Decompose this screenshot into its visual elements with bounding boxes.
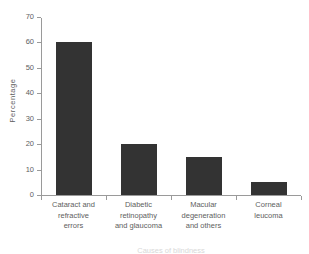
x-category-label-line: Cataract and [42, 200, 105, 211]
bar-2 [186, 157, 222, 195]
y-axis-spine [41, 18, 42, 196]
x-category-label-line: and others [172, 221, 235, 232]
x-category-label-3: Cornealleucoma [236, 200, 301, 242]
x-category-label-line: errors [42, 221, 105, 232]
x-category-label-line: leucoma [237, 211, 300, 222]
x-category-label-line: retinopathy [107, 211, 170, 222]
y-tick-label-50: 50 [26, 63, 34, 72]
y-tick-label-40: 40 [26, 88, 34, 97]
x-axis-category-labels: Cataract andrefractiveerrorsDiabeticreti… [41, 200, 301, 242]
plot-area: 010203040506070 [41, 18, 301, 196]
y-tick-label-20: 20 [26, 139, 34, 148]
y-tick-40: 40 [37, 93, 41, 94]
y-axis-label-container: Percentage [4, 0, 22, 200]
y-tick-label-0: 0 [30, 190, 34, 199]
bar-0 [56, 42, 92, 195]
x-category-label-line: Macular [172, 200, 235, 211]
x-tick-4 [301, 196, 302, 200]
x-category-label-1: Diabeticretinopathyand glaucoma [106, 200, 171, 242]
figure-caption: Causes of blindness [41, 246, 301, 254]
x-category-label-2: Maculardegenerationand others [171, 200, 236, 242]
y-tick-label-10: 10 [26, 165, 34, 174]
y-tick-30: 30 [37, 119, 41, 120]
bar-3 [251, 182, 287, 195]
y-tick-label-30: 30 [26, 114, 34, 123]
y-tick-label-60: 60 [26, 37, 34, 46]
y-tick-70: 70 [37, 17, 41, 18]
x-category-label-line: and glaucoma [107, 221, 170, 232]
x-category-label-line: degeneration [172, 211, 235, 222]
y-tick-60: 60 [37, 42, 41, 43]
y-tick-50: 50 [37, 68, 41, 69]
bar-chart-figure: Percentage 010203040506070 Cataract andr… [0, 0, 309, 254]
x-category-label-0: Cataract andrefractiveerrors [41, 200, 106, 242]
x-category-label-line: Corneal [237, 200, 300, 211]
y-tick-10: 10 [37, 170, 41, 171]
y-axis-label: Percentage [9, 78, 18, 122]
x-category-label-line: refractive [42, 211, 105, 222]
x-category-label-line: Diabetic [107, 200, 170, 211]
y-tick-20: 20 [37, 144, 41, 145]
bar-1 [121, 144, 157, 195]
y-tick-label-70: 70 [26, 12, 34, 21]
